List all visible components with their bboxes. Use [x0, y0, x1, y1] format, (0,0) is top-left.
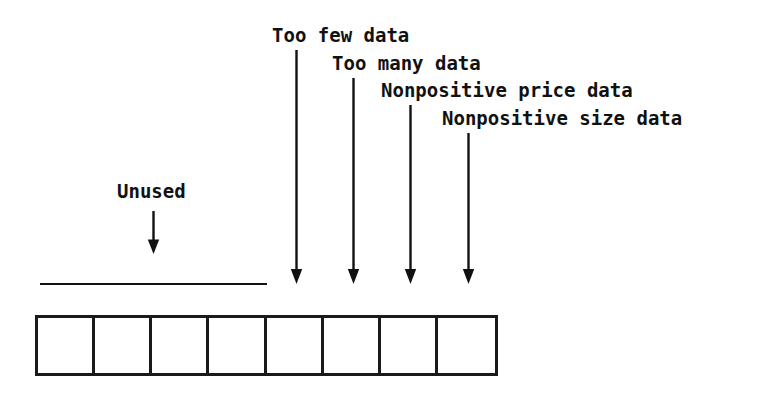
- array-cell[interactable]: [209, 318, 266, 373]
- unused-span-line: [40, 283, 267, 285]
- array-cell[interactable]: [38, 318, 95, 373]
- down-arrow-icon-nonpositive-price-data: [404, 105, 417, 284]
- down-arrow-icon-too-few-data: [290, 50, 303, 284]
- callout-label-nonpositive-price-data: Nonpositive price data: [381, 81, 633, 100]
- callout-label-too-many-data: Too many data: [332, 54, 481, 73]
- down-arrow-icon-unused: [147, 211, 160, 254]
- array-container: [35, 315, 498, 376]
- array-cell[interactable]: [324, 318, 381, 373]
- callout-label-unused: Unused: [117, 182, 186, 201]
- callout-label-too-few-data: Too few data: [272, 26, 409, 45]
- callout-label-nonpositive-size-data: Nonpositive size data: [442, 109, 682, 128]
- diagram-canvas: Unused Too few data Too many data Nonpos…: [0, 0, 779, 397]
- array-cell[interactable]: [95, 318, 152, 373]
- array-cell[interactable]: [438, 318, 495, 373]
- array-cell[interactable]: [267, 318, 324, 373]
- down-arrow-icon-too-many-data: [347, 78, 360, 284]
- array-cell[interactable]: [152, 318, 209, 373]
- array-cell[interactable]: [381, 318, 438, 373]
- down-arrow-icon-nonpositive-size-data: [462, 133, 475, 284]
